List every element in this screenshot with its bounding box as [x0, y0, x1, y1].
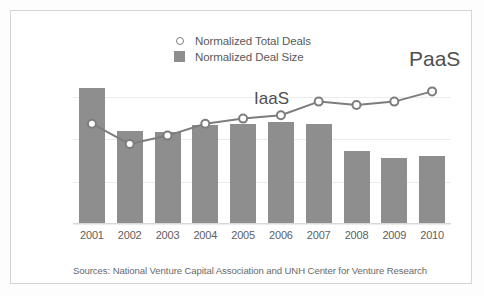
line-marker — [164, 132, 172, 140]
chart-frame: Normalized Total Deals Normalized Deal S… — [10, 10, 472, 284]
line-marker — [201, 120, 209, 128]
chart-figure: Normalized Total Deals Normalized Deal S… — [0, 0, 484, 296]
x-axis-tick-label: 2005 — [224, 229, 262, 241]
line-marker — [428, 87, 436, 95]
x-axis-tick-label: 2009 — [375, 229, 413, 241]
x-axis-tick-label: 2001 — [73, 229, 111, 241]
line-marker — [277, 111, 285, 119]
gridline — [73, 224, 451, 225]
x-axis-tick-label: 2008 — [338, 229, 376, 241]
line-marker — [239, 115, 247, 123]
line-marker — [88, 120, 96, 128]
line-marker — [126, 140, 134, 148]
annotation-paas: PaaS — [409, 47, 460, 71]
x-axis-tick-label: 2002 — [111, 229, 149, 241]
x-axis-tick-label: 2007 — [300, 229, 338, 241]
line-series-normalized-total-deals — [73, 13, 451, 224]
x-axis-tick-label: 2010 — [413, 229, 451, 241]
source-note: Sources: National Venture Capital Associ… — [73, 265, 427, 276]
x-axis-tick-labels: 2001200220032004200520062007200820092010 — [73, 229, 451, 245]
line-marker — [315, 98, 323, 106]
x-axis-tick-label: 2004 — [186, 229, 224, 241]
line-marker — [390, 98, 398, 106]
line-marker — [353, 101, 361, 109]
x-axis-tick-label: 2003 — [149, 229, 187, 241]
x-axis-line — [73, 223, 451, 224]
x-axis-tick-label: 2006 — [262, 229, 300, 241]
annotation-iaas: IaaS — [254, 89, 289, 109]
